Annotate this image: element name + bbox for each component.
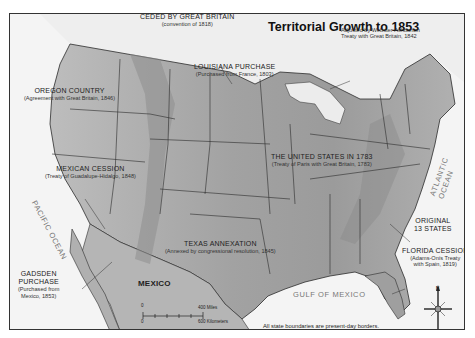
scale-zero-miles: 0 — [141, 303, 144, 308]
label-mexico: MEXICO — [138, 279, 171, 288]
label-louisiana-purchase: LOUISIANA PURCHASE (Purchased from Franc… — [194, 63, 275, 77]
label-webster-ashburton: Adjusted by Webster-Ashburton Treaty wit… — [341, 27, 420, 40]
label-oregon-country: OREGON COUNTRY (Agreement with Great Bri… — [24, 87, 115, 101]
scale-kilometers: 600 Kilometers — [198, 319, 228, 324]
label-gulf-of-mexico: GULF OF MEXICO — [293, 290, 366, 299]
map-frame: Territorial Growth to 1853 CANADA CEDED … — [9, 13, 465, 330]
label-original-13-states: ORIGINAL 13 STATES — [414, 217, 452, 233]
label-ceded-by-great-britain: CEDED BY GREAT BRITAIN (convention of 18… — [140, 13, 235, 27]
compass-rose — [424, 285, 452, 330]
label-canada: CANADA — [78, 13, 114, 14]
label-united-states-1783: THE UNITED STATES IN 1783 (Treaty of Par… — [271, 153, 373, 167]
scale-zero-km: 0 — [141, 319, 144, 324]
scale-miles: 400 Miles — [198, 305, 217, 310]
label-gadsden-purchase: GADSDEN PURCHASE (Purchased from Mexico,… — [18, 270, 59, 299]
label-mexican-cession: MEXICAN CESSION (Treaty of Guadalupe-Hid… — [45, 165, 136, 179]
label-texas-annexation: TEXAS ANNEXATION (Annexed by congression… — [165, 240, 276, 254]
compass-north-label: N — [436, 286, 439, 291]
label-florida-cession: FLORIDA CESSION (Adams-Onís Treaty with … — [402, 247, 465, 268]
boundaries-note: All state boundaries are present-day bor… — [263, 323, 379, 329]
